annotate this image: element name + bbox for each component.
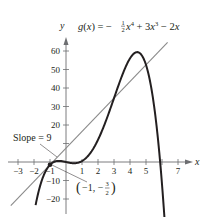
- x-tick-label: −2: [29, 166, 39, 176]
- chart-title-rest: x4 + 3x3 − 2x: [125, 20, 180, 32]
- y-axis-label: y: [59, 20, 65, 31]
- x-tick-label: −3: [13, 166, 23, 176]
- axes: x y −3−2−1123457 −20−102030405060: [8, 20, 200, 214]
- x-tick-label: 4: [128, 166, 133, 176]
- title-fraction: 1 2: [121, 19, 125, 34]
- chart-title: g(x) = −: [78, 21, 112, 33]
- svg-text:2: 2: [122, 26, 125, 33]
- tangent-point: [48, 162, 53, 167]
- y-tick-label: −20: [46, 194, 61, 204]
- svg-text:): ): [111, 180, 116, 196]
- x-tick-label: 1: [80, 166, 85, 176]
- slope-label: Slope = 9: [13, 132, 51, 143]
- y-axis-arrow-icon: [64, 37, 69, 45]
- svg-text:1: 1: [122, 19, 125, 26]
- x-axis-arrow-icon: [185, 160, 193, 165]
- y-tick-label: 40: [51, 83, 61, 93]
- svg-text:2: 2: [106, 189, 109, 196]
- x-tick-label: 3: [112, 166, 117, 176]
- x-axis-label: x: [194, 156, 200, 167]
- svg-text:3: 3: [106, 180, 109, 187]
- x-tick-label: 5: [144, 166, 149, 176]
- x-tick-label: 7: [176, 166, 181, 176]
- svg-text:(: (: [76, 180, 81, 196]
- point-label: ( −1, − 3 2 ): [76, 180, 116, 196]
- x-tick-label: 2: [96, 166, 101, 176]
- y-tick-label: 60: [51, 46, 61, 56]
- y-tick-label: 30: [51, 102, 61, 112]
- function-graph: x y −3−2−1123457 −20−102030405060 g(x) =…: [0, 0, 206, 219]
- slope-leader-line: [40, 144, 57, 157]
- y-tick-label: −10: [46, 176, 61, 186]
- y-tick-label: 50: [51, 65, 61, 75]
- svg-text:−1, −: −1, −: [82, 182, 104, 193]
- y-ticks: −20−102030405060: [46, 46, 69, 204]
- y-tick-label: 20: [51, 120, 61, 130]
